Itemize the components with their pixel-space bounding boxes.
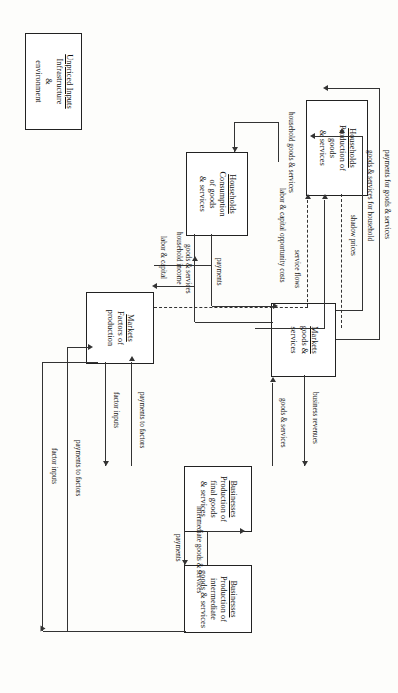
node-heading: Households: [227, 174, 237, 214]
edge-factor-inputs2-h: [42, 362, 43, 631]
edge-intermediate-h1: [207, 531, 208, 565]
node-line: final goods: [208, 480, 218, 518]
edge-label-household-income: household income: [175, 232, 182, 285]
edge-opportunity-costs-h: [307, 200, 308, 307]
node-heading: Unpriced Inputs: [64, 54, 74, 108]
edge-factor-inputs2-riser: [43, 631, 186, 632]
node-markets-factors[interactable]: Markets Factors of production: [86, 292, 154, 364]
edge-goods-for-household-v1: [336, 310, 363, 311]
edge-payments-to-factors2-h: [67, 347, 68, 631]
arrowhead: [103, 461, 109, 466]
node-line: Production of: [218, 576, 228, 622]
node-unpriced-inputs[interactable]: Unpriced Inputs Infrastructure & environ…: [25, 33, 82, 130]
edge-labor-capital-v: [154, 286, 195, 287]
node-heading: Households: [347, 128, 357, 168]
edge-label-shadow-prices: shadow prices: [349, 215, 356, 256]
edge-label-opportunity-costs: labor & capital opportunity costs: [278, 188, 285, 283]
node-line: Infrastructure: [54, 59, 64, 105]
edge-shadow-prices: [341, 194, 342, 328]
edge-payments-goods-services-v2: [326, 88, 380, 89]
edge-payments-v: [212, 306, 273, 307]
edge-label-payments-2: payments: [174, 534, 181, 562]
node-heading: Businesses: [228, 481, 238, 518]
arrowhead: [270, 377, 276, 382]
edge-payments-goods-services-v1: [336, 339, 380, 340]
edge-goods-for-household-h: [362, 136, 363, 310]
edge-label-payments-to-factors: payments to factors: [138, 392, 145, 448]
edge-business-revenues-h: [304, 375, 305, 466]
arrowhead: [302, 461, 308, 466]
diagram-page: Households Production of goods & service…: [0, 0, 398, 693]
edge-label-factor-inputs: factor inputs: [112, 392, 119, 428]
node-line: of goods: [207, 179, 217, 208]
node-line: production: [105, 310, 115, 346]
edge-goods-services2-h: [272, 383, 273, 466]
arrowhead: [322, 194, 328, 199]
edge-label-intermediate-goods-services: intermediate goods & services: [195, 506, 202, 593]
edge-payments-h: [211, 234, 212, 306]
arrowhead: [152, 283, 157, 289]
node-line: Consumption: [217, 171, 227, 216]
edge-label-household-goods-services: household goods & services: [287, 112, 294, 193]
edge-label-labor-capital: labor & capital: [159, 236, 166, 279]
arrowhead: [240, 528, 245, 534]
node-line: goods &: [298, 326, 308, 355]
edge-unpriced-riser: [255, 328, 325, 329]
node-line: services: [288, 326, 298, 353]
node-households-consumption[interactable]: Households Consumption of goods & servic…: [186, 152, 248, 236]
edge-opportunity-costs-v: [154, 307, 308, 308]
node-households-production[interactable]: Households Production of goods & service…: [306, 100, 368, 196]
edge-goods-for-household-v2: [313, 136, 363, 137]
edge-label-payments: payments: [215, 258, 222, 286]
arrowhead: [129, 356, 135, 361]
edge-factor-inputs2-v1: [43, 362, 98, 363]
arrowhead: [192, 256, 198, 261]
edge-label-goods-services-2: goods & services: [279, 398, 286, 448]
node-line: intermediate: [208, 578, 218, 620]
node-line: goods: [327, 138, 337, 158]
edge-household-goods-h1: [278, 122, 279, 162]
node-line: &: [43, 78, 53, 84]
node-line: & services: [197, 176, 207, 212]
edge-intermediate-v: [208, 531, 240, 532]
arrowhead: [232, 147, 238, 152]
edge-labor-capital-h: [194, 234, 195, 286]
arrowhead: [305, 194, 311, 199]
node-line: environment: [33, 60, 43, 102]
edge-factor-inputs-h: [105, 362, 106, 466]
edge-label-service-flows: service flows: [293, 250, 300, 288]
node-heading: Markets: [309, 326, 319, 354]
edge-goods-services-v: [195, 322, 273, 323]
edge-label-business-revenues: business revenues: [311, 392, 318, 444]
edge-payments-to-factors2-v2: [68, 347, 88, 348]
edge-label-payments-to-factors-2: payments to factors: [74, 440, 81, 496]
edge-household-goods-v: [235, 122, 279, 123]
edge-label-payments-for-goods-services: payments for goods & services: [383, 150, 390, 239]
edge-label-goods-services-for-household: goods & services for household: [366, 150, 373, 241]
diagram-canvas: Households Production of goods & service…: [0, 0, 398, 693]
arrowhead: [182, 560, 188, 565]
arrowhead: [88, 344, 93, 350]
node-line: Factors of: [115, 311, 125, 345]
node-heading: Markets: [125, 314, 135, 342]
edge-payments-goods-services-h: [379, 88, 380, 339]
edge-payments-to-factors-h: [131, 362, 132, 466]
arrowhead: [339, 128, 345, 133]
node-heading: Businesses: [228, 581, 238, 618]
arrowhead: [310, 133, 315, 139]
edge-unpriced-to-hh-production: [324, 200, 325, 328]
arrowhead: [323, 85, 328, 91]
node-markets-goods-services[interactable]: Markets goods & services: [271, 303, 336, 377]
arrowhead: [273, 303, 278, 309]
node-line: Production of: [218, 476, 228, 522]
edge-label-factor-inputs-2: factor inputs: [50, 448, 57, 484]
